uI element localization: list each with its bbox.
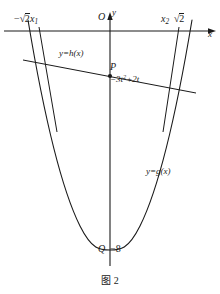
- expression-head: −3t: [110, 74, 123, 84]
- label-origin: O: [98, 12, 105, 22]
- label-curve-g: y=g(x): [146, 167, 171, 176]
- vertical-line-x1: [39, 27, 57, 132]
- label-y-axis: y: [112, 8, 116, 17]
- label-vertex-value: −8: [110, 244, 121, 254]
- label-secant-expression: −3t2+2t: [110, 74, 139, 84]
- expression-tail: +2t: [126, 74, 139, 84]
- figure-caption: 图 2: [0, 272, 220, 287]
- label-x-axis: x: [208, 30, 212, 39]
- label-left-root-x1: −√2x1: [14, 13, 38, 26]
- label-point-p: P: [110, 62, 116, 72]
- figure-container: −√2x1 x2√2 O y x y=h(x) P −3t2+2t y=g(x)…: [0, 0, 220, 294]
- label-x2-subscript: 2: [165, 18, 169, 26]
- vertical-line-x2: [163, 27, 179, 132]
- label-point-q: Q: [98, 244, 105, 254]
- radical-icon: √2: [20, 13, 30, 24]
- label-x1-subscript: 1: [34, 18, 38, 26]
- label-right-x2-root: x2√2: [161, 13, 184, 26]
- radical-icon-right: √2: [174, 13, 184, 24]
- label-curve-h: y=h(x): [59, 49, 84, 58]
